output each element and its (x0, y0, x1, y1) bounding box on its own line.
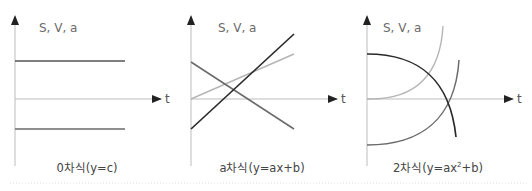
kinematics-order-diagram: S, V, a t 0차식(y=c) S, V, a t a차식(y=ax+b)… (0, 0, 532, 191)
caption-main: 2차식(y=ax (393, 161, 457, 175)
x-axis-label: t (165, 92, 170, 106)
line-increasing-steep (191, 34, 294, 129)
y-axis-label: S, V, a (218, 21, 256, 35)
line-increasing-gentle (191, 54, 294, 99)
curve-parabola-up-light (367, 26, 443, 99)
y-axis-label: S, V, a (39, 21, 77, 35)
y-axis-label: S, V, a (383, 21, 421, 35)
caption-tail: +b) (462, 161, 483, 175)
panel-caption: a차식(y=ax+b) (219, 161, 304, 175)
panel-second-order: S, V, a t 2차식(y=ax2+b) (367, 16, 522, 175)
curve-parabola-down (367, 54, 456, 137)
panel-caption: 2차식(y=ax2+b) (393, 161, 483, 175)
x-axis-label: t (517, 92, 522, 106)
panel-zero-order: S, V, a t 0차식(y=c) (15, 16, 170, 175)
panel-caption: 0차식(y=c) (56, 161, 117, 175)
panel-first-order: S, V, a t a차식(y=ax+b) (191, 16, 346, 175)
x-axis-label: t (341, 92, 346, 106)
line-decreasing (191, 62, 294, 129)
curve-parabola-up-mid (367, 60, 459, 145)
